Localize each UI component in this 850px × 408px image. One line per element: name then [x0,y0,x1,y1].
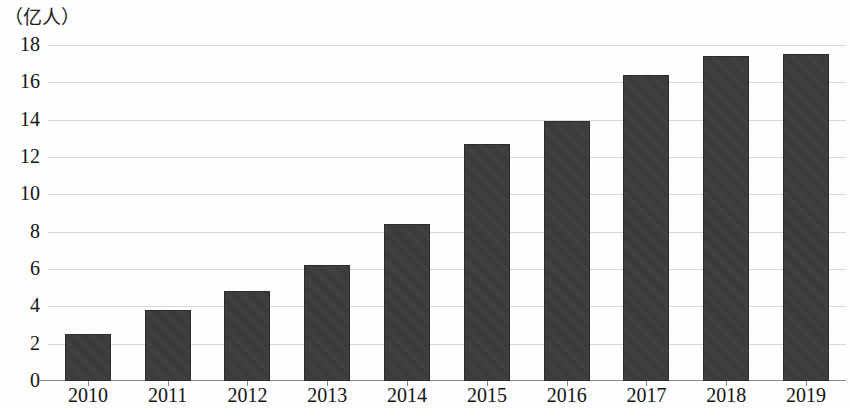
y-axis-tick-label: 6 [0,258,40,278]
x-axis-tick-label: 2011 [128,384,208,406]
bar-slot [447,30,527,381]
y-axis-tick-label: 18 [0,34,40,54]
y-axis-tick-label: 16 [0,71,40,91]
x-axis-tick-label: 2018 [686,384,766,406]
y-axis-tick-label: 14 [0,109,40,129]
y-axis-tick-label: 10 [0,183,40,203]
x-axis-labels: 2010201120122013201420152016201720182019 [48,384,846,406]
bar [224,291,270,381]
x-axis-tick-label: 2013 [287,384,367,406]
x-axis-tick-label: 2019 [766,384,846,406]
x-axis-tick-label: 2016 [527,384,607,406]
bar-slot [48,30,128,381]
bar [384,224,430,381]
bar-slot [766,30,846,381]
bar [304,265,350,381]
y-axis-tick-label: 4 [0,295,40,315]
bar [544,121,590,381]
bar-slot [527,30,607,381]
bar-slot [208,30,288,381]
y-axis-tick-label: 2 [0,333,40,353]
x-axis-tick-label: 2012 [208,384,288,406]
bar [65,334,111,381]
bar-slot [686,30,766,381]
bar [703,56,749,381]
bar-series [48,30,846,381]
bar-chart: （亿人） 181614121086420 2010201120122013201… [0,0,850,408]
x-axis-tick-label: 2015 [447,384,527,406]
bar [145,310,191,381]
bar-slot [607,30,687,381]
x-axis-tick-label: 2010 [48,384,128,406]
x-axis-tick-label: 2017 [607,384,687,406]
y-axis-tick-label: 0 [0,370,40,390]
plot-area: 181614121086420 [48,30,846,381]
y-axis-tick-label: 12 [0,146,40,166]
bar-slot [367,30,447,381]
y-axis-unit-label: （亿人） [4,2,80,29]
x-axis-tick-label: 2014 [367,384,447,406]
y-axis-tick-label: 8 [0,221,40,241]
bar-slot [128,30,208,381]
bar [623,75,669,381]
bar [464,144,510,381]
bar [783,54,829,381]
bar-slot [287,30,367,381]
